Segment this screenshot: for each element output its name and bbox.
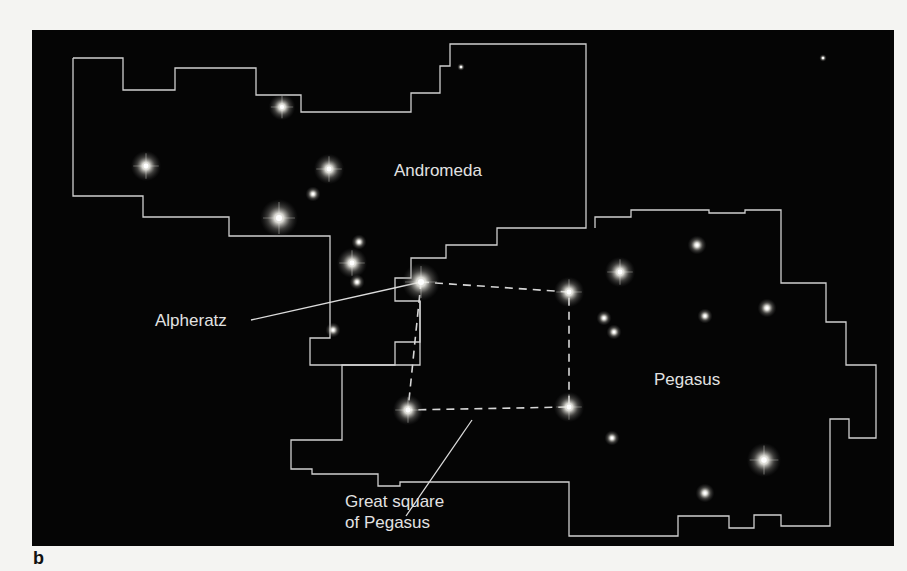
star [758, 299, 777, 318]
star [337, 248, 367, 278]
star [554, 392, 584, 422]
pegasus-boundary [291, 210, 876, 536]
great-square-label-line1: Great square [345, 492, 444, 512]
star [604, 430, 619, 445]
star [314, 154, 344, 184]
star [688, 236, 707, 255]
star [605, 257, 635, 287]
star [305, 186, 320, 201]
star [596, 310, 611, 325]
stars-group [131, 54, 827, 502]
star [325, 322, 340, 337]
star [131, 151, 161, 181]
andromeda-label: Andromeda [394, 161, 482, 181]
star [402, 263, 440, 301]
star [819, 54, 827, 62]
star [554, 277, 584, 307]
star [349, 274, 364, 289]
star [696, 484, 715, 503]
andromeda-boundary [73, 44, 586, 365]
great-square-label-line2: of Pegasus [345, 513, 430, 533]
star [697, 308, 712, 323]
star [457, 63, 465, 71]
star [260, 199, 298, 237]
star [606, 324, 621, 339]
star [351, 234, 366, 249]
alpheratz-label: Alpheratz [155, 311, 227, 331]
star-chart [32, 30, 894, 546]
great-square-asterism [408, 282, 569, 410]
panel-label: b [33, 548, 44, 569]
star [269, 94, 296, 121]
star [747, 443, 781, 477]
pegasus-label: Pegasus [654, 370, 720, 390]
sky-panel: Andromeda Alpheratz Pegasus Great square… [32, 30, 894, 546]
star [393, 395, 423, 425]
